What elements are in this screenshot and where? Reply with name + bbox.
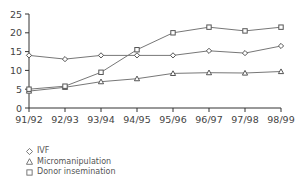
diamond-marker-icon: [134, 53, 139, 58]
diamond-marker-icon: [242, 51, 247, 56]
x-tick-label: 91/92: [15, 114, 42, 125]
triangle-marker-icon: [170, 71, 175, 76]
square-marker-icon: [99, 70, 103, 74]
triangle-marker-icon: [278, 69, 283, 74]
x-tick-label: 98/99: [267, 114, 294, 125]
chart-axes: 051015202591/9292/9393/9494/9595/9696/97…: [10, 9, 295, 126]
diamond-marker-icon: [62, 57, 67, 62]
square-marker-icon: [63, 84, 67, 88]
square-marker-icon: [171, 31, 175, 35]
y-tick-label: 15: [10, 46, 22, 57]
y-tick-label: 20: [10, 27, 22, 38]
square-marker-icon: [243, 29, 247, 33]
triangle-marker-icon: [206, 70, 211, 75]
diamond-marker-icon: [98, 53, 103, 58]
x-tick-label: 95/96: [159, 114, 186, 125]
x-tick-label: 93/94: [87, 114, 114, 125]
x-tick-label: 92/93: [51, 114, 78, 125]
triangle-marker-icon: [134, 76, 139, 81]
square-marker-icon: [279, 25, 283, 29]
square-marker-icon: [135, 48, 139, 52]
legend-item-ivf: IVF: [26, 146, 116, 157]
series-micromanipulation: [26, 69, 283, 93]
x-tick-label: 97/98: [231, 114, 258, 125]
y-tick-label: 5: [16, 84, 22, 95]
chart-series: [26, 25, 283, 93]
diamond-marker-icon: [278, 43, 283, 48]
triangle-marker-icon: [242, 70, 247, 75]
square-marker-icon: [27, 87, 31, 91]
y-tick-label: 25: [10, 9, 22, 20]
chart-legend: IVF Micromanipulation Donor insemination: [26, 146, 116, 178]
legend-label: IVF: [37, 146, 49, 157]
triangle-marker-icon: [26, 158, 33, 165]
line-chart: 051015202591/9292/9393/9494/9595/9696/97…: [0, 0, 302, 140]
diamond-marker-icon: [26, 148, 33, 155]
square-marker-icon: [207, 25, 211, 29]
legend-label: Donor insemination: [37, 167, 116, 178]
legend-label: Micromanipulation: [37, 157, 111, 168]
square-marker-icon: [26, 169, 33, 176]
diamond-marker-icon: [206, 48, 211, 53]
legend-item-micromanipulation: Micromanipulation: [26, 157, 116, 168]
diamond-marker-icon: [26, 53, 31, 58]
diamond-marker-icon: [170, 53, 175, 58]
triangle-marker-icon: [98, 79, 103, 84]
x-tick-label: 96/97: [195, 114, 222, 125]
y-tick-label: 10: [10, 65, 22, 76]
x-tick-label: 94/95: [123, 114, 150, 125]
series-ivf: [26, 43, 283, 61]
legend-item-donor-insemination: Donor insemination: [26, 167, 116, 178]
y-tick-label: 0: [16, 103, 22, 114]
